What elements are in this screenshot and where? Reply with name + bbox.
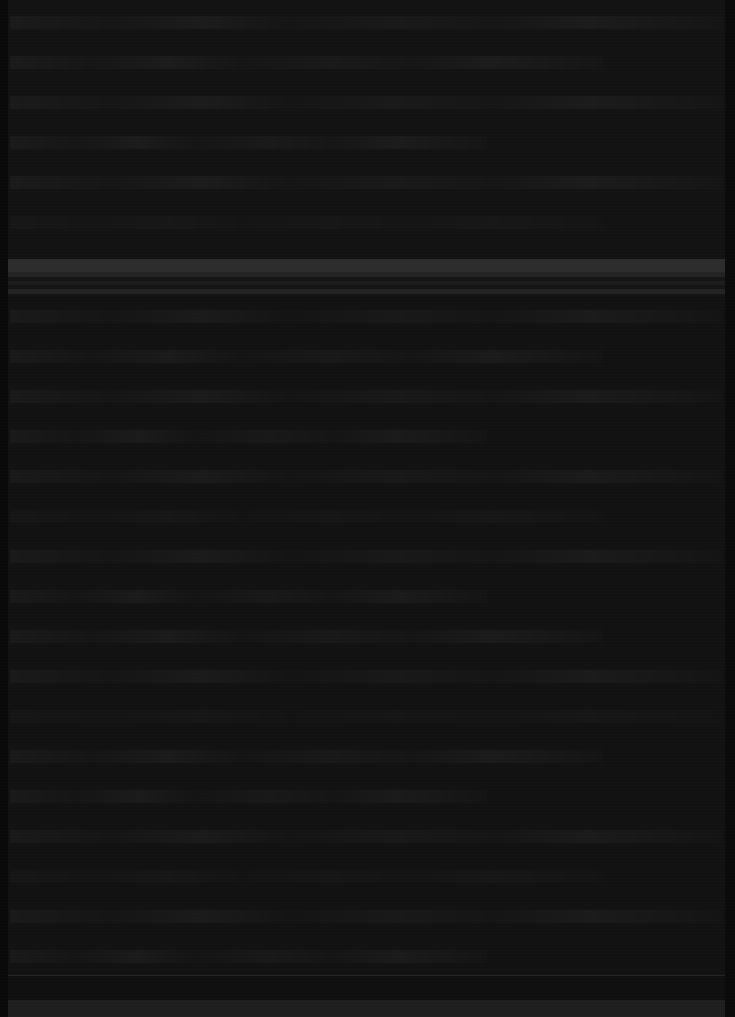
text-row [10, 96, 723, 109]
text-row [10, 470, 723, 483]
text-row [10, 510, 603, 523]
gutter-right [725, 0, 735, 1017]
text-row [10, 910, 723, 923]
text-row [10, 136, 487, 149]
top-content-block [0, 0, 735, 258]
toolbar-stripe[interactable] [0, 272, 735, 277]
toolbar-stripe[interactable] [0, 281, 735, 285]
text-row [10, 670, 723, 683]
text-row [10, 176, 723, 189]
text-row [10, 630, 603, 643]
text-row [10, 590, 487, 603]
text-row [10, 216, 603, 229]
text-row [10, 430, 487, 443]
footer-divider [0, 975, 735, 976]
text-row [10, 310, 723, 323]
toolbar-band-group [0, 272, 735, 296]
text-row [10, 830, 723, 843]
toolbar-stripe[interactable] [0, 289, 735, 294]
text-row [10, 350, 603, 363]
text-row [10, 56, 603, 69]
screenshot-canvas [0, 0, 735, 1017]
text-row [10, 16, 723, 29]
gutter-left [0, 0, 8, 1017]
text-row [10, 790, 487, 803]
header-bar[interactable] [0, 259, 735, 272]
text-row [10, 710, 723, 723]
text-row [10, 550, 723, 563]
text-row [10, 950, 487, 963]
text-row [10, 390, 723, 403]
text-row [10, 870, 603, 883]
main-body [0, 296, 735, 975]
footer-strip[interactable] [0, 1000, 735, 1017]
text-row [10, 750, 603, 763]
